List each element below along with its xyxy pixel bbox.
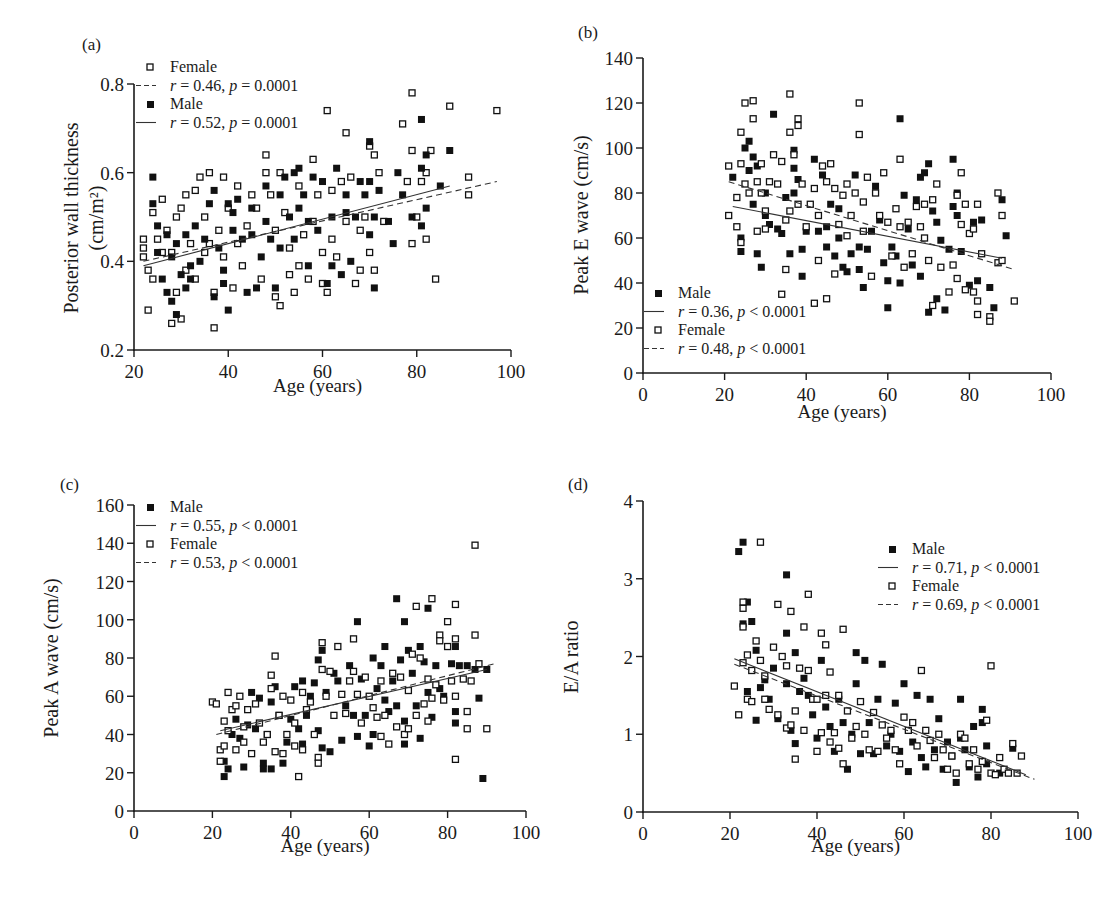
point-open-square (734, 224, 740, 230)
point-open-square (864, 174, 870, 180)
legend-marker-open-square (147, 64, 153, 70)
point-open-square (466, 192, 472, 198)
point-filled-square (417, 643, 424, 650)
point-open-square (922, 235, 928, 241)
point-filled-square (909, 262, 916, 269)
point-filled-square (154, 222, 161, 229)
point-open-square (954, 276, 960, 282)
point-open-square (378, 678, 384, 684)
point-open-square (348, 174, 354, 180)
point-open-square (441, 697, 447, 703)
point-open-square (1010, 741, 1016, 747)
point-open-square (731, 683, 737, 689)
point-open-square (771, 644, 777, 650)
legend-label: r = 0.69, p < 0.0001 (912, 596, 1040, 614)
x-tick-label: 80 (982, 823, 1001, 844)
point-filled-square (792, 740, 799, 747)
point-filled-square (740, 539, 747, 546)
y-tick-label: 20 (614, 318, 633, 339)
point-filled-square (809, 711, 816, 718)
point-open-square (862, 731, 868, 737)
point-filled-square (860, 284, 867, 291)
point-open-square (758, 161, 764, 167)
point-filled-square (315, 656, 322, 663)
point-filled-square (888, 244, 895, 251)
point-open-square (217, 758, 223, 764)
point-filled-square (954, 212, 961, 219)
point-filled-square (796, 688, 803, 695)
point-open-square (918, 667, 924, 673)
point-open-square (818, 730, 824, 736)
point-filled-square (935, 715, 942, 722)
point-filled-square (201, 236, 208, 243)
point-open-square (409, 90, 415, 96)
point-filled-square (925, 160, 932, 167)
legend-marker-open-square (147, 541, 153, 547)
point-filled-square (221, 773, 228, 780)
point-filled-square (389, 677, 396, 684)
point-open-square (757, 539, 763, 545)
point-open-square (726, 163, 732, 169)
point-open-square (404, 179, 410, 185)
point-open-square (726, 213, 732, 219)
point-open-square (374, 714, 380, 720)
point-open-square (885, 219, 891, 225)
point-open-square (145, 267, 151, 273)
y-tick-label: 0.2 (100, 340, 124, 361)
point-open-square (740, 599, 746, 605)
x-axis-label: Age (years) (797, 401, 886, 423)
point-open-square (744, 652, 750, 658)
point-open-square (233, 703, 239, 709)
point-filled-square (310, 174, 317, 181)
point-filled-square (281, 174, 288, 181)
point-open-square (970, 226, 976, 232)
x-tick-label: 80 (407, 361, 426, 382)
point-open-square (235, 183, 241, 189)
point-open-square (958, 222, 964, 228)
y-axis-label-units: (cm/m²) (85, 186, 108, 251)
point-filled-square (225, 200, 232, 207)
point-filled-square (423, 151, 430, 158)
y-tick-label: 160 (96, 495, 125, 516)
point-filled-square (343, 191, 350, 198)
point-open-square (159, 196, 165, 202)
point-open-square (287, 245, 293, 251)
point-open-square (272, 294, 278, 300)
point-open-square (884, 735, 890, 741)
point-open-square (936, 731, 942, 737)
point-open-square (221, 718, 227, 724)
point-open-square (1011, 298, 1017, 304)
point-open-square (230, 285, 236, 291)
point-filled-square (401, 618, 408, 625)
point-filled-square (950, 156, 957, 163)
point-filled-square (182, 284, 189, 291)
point-filled-square (799, 273, 806, 280)
point-open-square (801, 624, 807, 630)
point-open-square (386, 741, 392, 747)
x-tick-label: 0 (129, 822, 139, 843)
point-filled-square (799, 246, 806, 253)
point-open-square (315, 760, 321, 766)
point-filled-square (753, 717, 760, 724)
point-open-square (791, 152, 797, 158)
point-open-square (464, 709, 470, 715)
panel-label: (d) (568, 475, 588, 494)
point-open-square (901, 714, 907, 720)
y-tick-label: 120 (96, 572, 125, 593)
point-open-square (452, 693, 458, 699)
point-open-square (958, 170, 964, 176)
point-open-square (260, 739, 266, 745)
y-tick-label: 120 (605, 93, 634, 114)
point-open-square (425, 718, 431, 724)
point-filled-square (168, 298, 175, 305)
legend-label: Male (912, 540, 945, 557)
point-filled-square (333, 165, 340, 172)
point-filled-square (479, 775, 486, 782)
point-open-square (362, 214, 368, 220)
point-filled-square (173, 311, 180, 318)
y-tick-label: 0.8 (100, 74, 124, 95)
data-points (209, 542, 490, 782)
point-filled-square (937, 237, 944, 244)
y-tick-label: 40 (105, 725, 124, 746)
point-open-square (371, 152, 377, 158)
